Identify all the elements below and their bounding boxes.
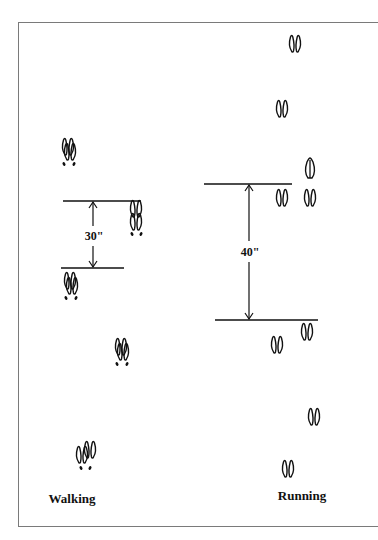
running-track-6 <box>301 324 312 341</box>
running-track-8 <box>308 409 319 426</box>
walking-track-2 <box>130 201 143 237</box>
running-tracks <box>271 36 319 478</box>
running-distance-label: 40" <box>241 245 260 259</box>
walking-measurement: 30" <box>61 201 141 268</box>
running-track-2 <box>276 101 287 118</box>
walking-track-4 <box>115 339 129 367</box>
walking-track-5 <box>76 442 95 471</box>
running-track-5 <box>304 190 315 207</box>
walking-title: Walking <box>49 491 96 506</box>
walking-track-3 <box>64 273 78 301</box>
running-track-3 <box>306 158 315 178</box>
running-track-4 <box>276 190 287 207</box>
running-measurement: 40" <box>204 184 318 320</box>
running-track-7 <box>271 337 282 354</box>
running-track-9 <box>282 461 293 478</box>
walking-distance-label: 30" <box>85 229 104 243</box>
running-title: Running <box>278 488 327 503</box>
walking-tracks <box>62 139 143 471</box>
walking-track-1 <box>62 139 76 167</box>
running-track-1 <box>289 36 300 53</box>
